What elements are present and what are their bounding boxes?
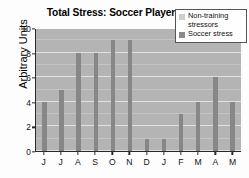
x-tick-slot: N (121, 152, 138, 174)
legend-item[interactable]: Soccer stress (178, 30, 244, 39)
y-tick-mark (32, 102, 35, 103)
chart-title: Total Stress: Soccer Player (38, 7, 184, 18)
x-tick-label: A (69, 157, 86, 167)
bar (59, 90, 64, 152)
plot-area (35, 29, 241, 152)
x-tick-slot: J (35, 152, 52, 174)
bar (145, 139, 150, 151)
x-tick-label: M (190, 157, 207, 167)
x-tick-slot: F (172, 152, 189, 174)
x-tick-label: S (87, 157, 104, 167)
legend-swatch-icon (179, 32, 185, 38)
x-tick-mark (163, 152, 164, 155)
x-tick-label: J (155, 157, 172, 167)
legend-label: Soccer stress (188, 30, 233, 39)
bar-slot (190, 29, 207, 151)
x-tick-mark (77, 152, 78, 155)
x-tick-slot: A (207, 152, 224, 174)
x-tick-label: D (138, 157, 155, 167)
x-tick-slot: O (104, 152, 121, 174)
x-tick-slot: M (190, 152, 207, 174)
bar-slot (53, 29, 70, 151)
x-tick-label: J (35, 157, 52, 167)
x-tick-label: N (121, 157, 138, 167)
x-tick-label: A (207, 157, 224, 167)
bar (213, 77, 218, 151)
bar (162, 139, 167, 151)
bar (179, 114, 184, 151)
bar-slot (104, 29, 121, 151)
x-tick-mark (112, 152, 113, 155)
bar (76, 53, 81, 151)
x-tick-slot: J (155, 152, 172, 174)
bar (111, 40, 116, 151)
x-tick-label: F (172, 157, 189, 167)
bar (196, 102, 201, 151)
y-tick-mark (32, 78, 35, 79)
y-tick-label: 8 (26, 49, 31, 59)
y-tick-label: 0 (26, 147, 31, 157)
y-tick-label: 4 (26, 98, 31, 108)
y-tick-mark (32, 28, 35, 29)
x-tick-slot: S (87, 152, 104, 174)
x-tick-mark (43, 152, 44, 155)
bar-slot (121, 29, 138, 151)
bar (128, 40, 133, 151)
x-axis-ticks: JJASONDJFMAM (35, 152, 241, 174)
bar-slot (207, 29, 224, 151)
x-tick-slot: D (138, 152, 155, 174)
bar (42, 102, 47, 151)
x-tick-mark (129, 152, 130, 155)
bar-series (36, 29, 241, 151)
bar-slot (87, 29, 104, 151)
y-tick-label: 2 (26, 122, 31, 132)
x-tick-slot: J (52, 152, 69, 174)
y-tick-mark (32, 53, 35, 54)
bar-slot (173, 29, 190, 151)
x-tick-slot: A (69, 152, 86, 174)
x-tick-mark (60, 152, 61, 155)
y-tick-label: 10 (22, 24, 31, 34)
x-tick-mark (232, 152, 233, 155)
bar-slot (70, 29, 87, 151)
bar-slot (36, 29, 53, 151)
x-tick-label: M (224, 157, 241, 167)
legend-label: Non-training stressors (188, 12, 244, 29)
x-tick-mark (180, 152, 181, 155)
bar (94, 53, 99, 151)
x-tick-label: O (104, 157, 121, 167)
bar-slot (138, 29, 155, 151)
x-tick-slot: M (224, 152, 241, 174)
x-tick-mark (94, 152, 95, 155)
bar-slot (224, 29, 241, 151)
y-tick-mark (32, 127, 35, 128)
legend-item[interactable]: Non-training stressors (178, 12, 244, 29)
x-tick-mark (215, 152, 216, 155)
x-tick-mark (146, 152, 147, 155)
bar (230, 102, 235, 151)
x-tick-mark (197, 152, 198, 155)
chart-legend: Non-training stressorsSoccer stress (175, 9, 247, 43)
chart-figure: Total Stress: Soccer Player Arbitrary Un… (0, 0, 249, 178)
legend-swatch-icon (179, 14, 185, 20)
x-tick-label: J (52, 157, 69, 167)
y-tick-label: 6 (26, 73, 31, 83)
bar-slot (156, 29, 173, 151)
